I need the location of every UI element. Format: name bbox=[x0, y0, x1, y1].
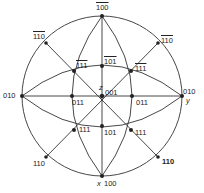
pole-011 bbox=[130, 94, 134, 98]
label-0m10: 010 bbox=[3, 92, 16, 100]
pole-m1m10 bbox=[44, 41, 48, 45]
label-m110-text: 110 bbox=[161, 36, 173, 45]
label-100: 100 bbox=[104, 180, 117, 188]
pole-110 bbox=[156, 155, 160, 159]
axis-label-x: x bbox=[97, 180, 101, 188]
label-m100-text: 100 bbox=[96, 3, 109, 12]
label-m111-text: 111 bbox=[135, 64, 146, 73]
pole-m100 bbox=[100, 14, 104, 18]
label-m111: 111 bbox=[135, 65, 146, 73]
label-101: 101 bbox=[104, 129, 117, 137]
label-m1m11: 111 bbox=[76, 62, 87, 70]
label-m110: 110 bbox=[161, 37, 173, 45]
pole-0m10 bbox=[20, 94, 24, 98]
label-m101-text: 101 bbox=[104, 57, 117, 66]
label-111: 111 bbox=[135, 129, 146, 137]
pole-m111 bbox=[129, 69, 133, 73]
label-0m11: 011 bbox=[72, 99, 84, 107]
pole-100 bbox=[100, 174, 104, 178]
label-010: 010 bbox=[183, 88, 196, 96]
label-m101: 101 bbox=[104, 58, 117, 66]
pole-001 bbox=[100, 94, 104, 98]
pole-m110 bbox=[156, 41, 160, 45]
label-m1m10: 110 bbox=[33, 33, 45, 41]
label-011: 011 bbox=[136, 99, 148, 107]
axis-label-z: z bbox=[99, 84, 103, 92]
pole-1m11 bbox=[72, 128, 76, 132]
label-1m11: 111 bbox=[79, 126, 90, 134]
label-m100: 100 bbox=[96, 4, 109, 12]
axis-label-y: y bbox=[186, 97, 190, 105]
label-110: 110 bbox=[162, 158, 174, 166]
label-001: 001 bbox=[105, 89, 118, 97]
pole-111 bbox=[129, 128, 133, 132]
label-1m10: 110 bbox=[33, 160, 45, 168]
